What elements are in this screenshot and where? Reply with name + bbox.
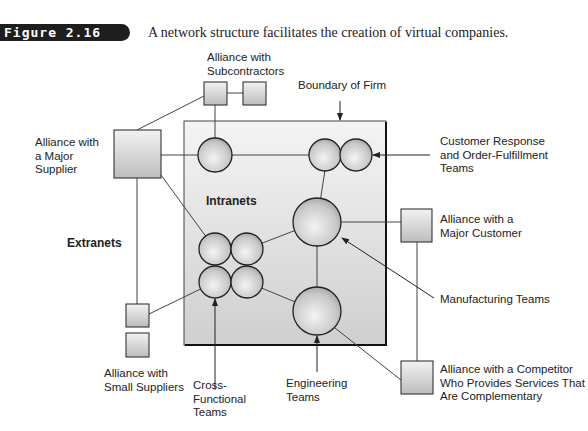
cross-functional-circle-3 [199, 266, 231, 298]
label-subcontractors: Alliance with Subcontractors [207, 51, 284, 78]
label-line: Functional [193, 393, 246, 407]
label-line: Alliance with a [440, 213, 522, 227]
label-line: Alliance with [207, 51, 284, 65]
small-supplier-box-2 [126, 333, 149, 357]
manufacturing-circle [293, 198, 341, 246]
label-manufacturing: Manufacturing Teams [440, 293, 550, 307]
small-supplier-box-1 [126, 304, 149, 327]
label-line: a Major [35, 150, 99, 164]
label-major-supplier: Alliance with a Major Supplier [35, 136, 99, 177]
label-line: Alliance with a Competitor [440, 363, 585, 377]
label-line: and Order-Fulfillment [440, 149, 548, 163]
label-line: Subcontractors [207, 65, 284, 79]
label-major-customer: Alliance with a Major Customer [440, 213, 522, 240]
customer-response-circle-1 [309, 139, 341, 171]
label-line: Teams [286, 391, 347, 405]
label-line: Are Complementary [440, 390, 585, 404]
team-circle-top-left [198, 138, 232, 172]
label-extranets: Extranets [67, 237, 122, 251]
label-line: Cross- [193, 379, 246, 393]
label-line: Supplier [35, 163, 99, 177]
subcontractor-box-2 [243, 82, 266, 105]
label-small-suppliers: Alliance with Small Suppliers [104, 367, 184, 394]
cross-functional-circle-2 [231, 233, 263, 265]
subcontractor-box-1 [204, 82, 227, 105]
label-line: Small Suppliers [104, 381, 184, 395]
competitor-box [401, 361, 433, 394]
cross-functional-circle-1 [199, 233, 231, 265]
customer-response-circle-2 [340, 139, 372, 171]
label-line: Teams [193, 406, 246, 420]
label-line: Customer Response [440, 135, 548, 149]
label-customer-response: Customer Response and Order-Fulfillment … [440, 135, 548, 176]
label-engineering: Engineering Teams [286, 377, 347, 404]
label-line: Teams [440, 162, 548, 176]
engineering-circle [293, 287, 341, 335]
label-line: Alliance with [35, 136, 99, 150]
major-customer-box [401, 209, 432, 242]
cross-functional-circle-4 [231, 266, 263, 298]
label-intranets: Intranets [206, 195, 257, 209]
label-line: Major Customer [440, 227, 522, 241]
label-line: Engineering [286, 377, 347, 391]
major-supplier-box [114, 130, 161, 178]
label-competitor: Alliance with a Competitor Who Provides … [440, 363, 585, 404]
label-line: Alliance with [104, 367, 184, 381]
label-line: Who Provides Services That [440, 377, 585, 391]
label-boundary: Boundary of Firm [298, 79, 386, 93]
label-cross-functional: Cross- Functional Teams [193, 379, 246, 420]
